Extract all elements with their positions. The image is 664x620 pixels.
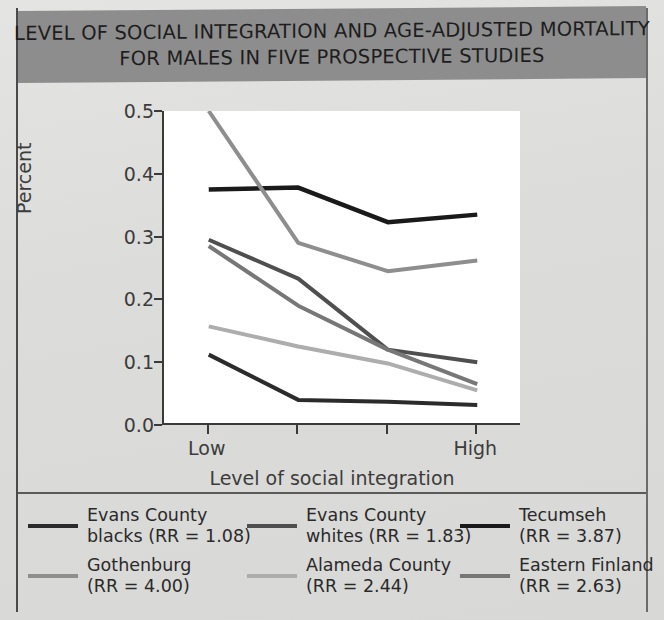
chart-legend: Evans Countyblacks (RR = 1.08)Evans Coun… bbox=[18, 492, 646, 604]
legend-label-line-2: (RR = 2.44) bbox=[306, 576, 451, 597]
legend-label-line-1: Alameda County bbox=[306, 555, 451, 576]
figure-page: LEVEL OF SOCIAL INTEGRATION AND AGE-ADJU… bbox=[0, 0, 664, 620]
y-tick-mark bbox=[154, 236, 162, 238]
x-tick-mark bbox=[207, 425, 209, 434]
y-tick-label: 0.4 bbox=[124, 163, 154, 185]
legend-item[interactable]: Evans Countywhites (RR = 1.83) bbox=[247, 501, 460, 551]
x-axis-label: Level of social integration bbox=[18, 467, 646, 489]
legend-item[interactable]: Eastern Finland(RR = 2.63) bbox=[460, 551, 646, 601]
legend-label-line-1: Eastern Finland bbox=[519, 555, 654, 576]
legend-swatch-line-icon bbox=[460, 574, 510, 578]
y-tick-label: 0.3 bbox=[124, 226, 154, 248]
legend-swatch-line-icon bbox=[247, 574, 297, 578]
y-tick-label: 0.5 bbox=[124, 100, 154, 122]
legend-label: Evans Countyblacks (RR = 1.08) bbox=[87, 505, 251, 548]
y-tick-mark bbox=[154, 298, 162, 300]
chart-title-line-2: FOR MALES IN FIVE PROSPECTIVE STUDIES bbox=[119, 43, 544, 72]
legend-label-line-2: (RR = 3.87) bbox=[519, 526, 622, 547]
x-tick-mark bbox=[475, 425, 477, 434]
legend-label-line-1: Evans County bbox=[306, 505, 471, 526]
x-tick-label: High bbox=[453, 437, 497, 459]
legend-swatch-line-icon bbox=[247, 524, 297, 528]
plot-area bbox=[162, 111, 520, 425]
y-tick-mark bbox=[154, 424, 162, 426]
x-tick-mark bbox=[386, 425, 388, 434]
legend-swatch-line-icon bbox=[28, 524, 78, 528]
chart-title-line-1: LEVEL OF SOCIAL INTEGRATION AND AGE-ADJU… bbox=[14, 16, 650, 47]
chart-title-banner: LEVEL OF SOCIAL INTEGRATION AND AGE-ADJU… bbox=[18, 6, 646, 83]
legend-label: Evans Countywhites (RR = 1.83) bbox=[306, 505, 471, 548]
legend-label-line-2: (RR = 2.63) bbox=[519, 576, 654, 597]
legend-item[interactable]: Alameda County(RR = 2.44) bbox=[247, 551, 460, 601]
legend-label: Alameda County(RR = 2.44) bbox=[306, 555, 451, 598]
y-axis-label: Percent bbox=[13, 143, 35, 215]
legend-item[interactable]: Gothenburg(RR = 4.00) bbox=[18, 551, 247, 601]
y-tick-label: 0.1 bbox=[124, 351, 154, 373]
legend-row: Evans Countyblacks (RR = 1.08)Evans Coun… bbox=[18, 501, 646, 551]
legend-label: Tecumseh(RR = 3.87) bbox=[519, 505, 622, 548]
y-tick-mark bbox=[154, 173, 162, 175]
series-line bbox=[209, 188, 478, 223]
legend-label-line-1: Tecumseh bbox=[519, 505, 622, 526]
x-tick-mark bbox=[296, 425, 298, 434]
legend-item[interactable]: Evans Countyblacks (RR = 1.08) bbox=[18, 501, 247, 551]
legend-swatch-line-icon bbox=[28, 574, 78, 578]
series-line bbox=[209, 111, 478, 271]
y-axis-tick-labels: 0.00.10.20.30.40.5 bbox=[92, 111, 154, 425]
legend-label-line-2: blacks (RR = 1.08) bbox=[87, 526, 251, 547]
legend-item[interactable]: Tecumseh(RR = 3.87) bbox=[460, 501, 646, 551]
legend-swatch-line-icon bbox=[460, 524, 510, 528]
y-tick-label: 0.2 bbox=[124, 288, 154, 310]
legend-label: Eastern Finland(RR = 2.63) bbox=[519, 555, 654, 598]
y-tick-mark bbox=[154, 110, 162, 112]
x-tick-label: Low bbox=[188, 437, 225, 459]
plot-lines bbox=[164, 111, 522, 425]
legend-label-line-1: Gothenburg bbox=[87, 555, 191, 576]
legend-label-line-2: (RR = 4.00) bbox=[87, 576, 191, 597]
legend-row: Gothenburg(RR = 4.00)Alameda County(RR =… bbox=[18, 551, 646, 601]
y-tick-mark bbox=[154, 361, 162, 363]
legend-label: Gothenburg(RR = 4.00) bbox=[87, 555, 191, 598]
y-tick-label: 0.0 bbox=[124, 414, 154, 436]
legend-label-line-1: Evans County bbox=[87, 505, 251, 526]
chart-area: Percent 0.00.10.20.30.40.5 Level of soci… bbox=[18, 86, 646, 486]
legend-label-line-2: whites (RR = 1.83) bbox=[306, 526, 471, 547]
